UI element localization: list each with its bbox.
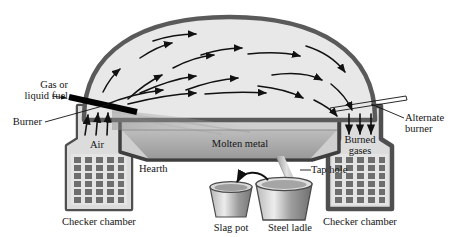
gas-or-liquid-fuel-label-line2: liquid fuel <box>2 90 68 102</box>
molten-metal-label: Molten metal <box>190 138 290 150</box>
alternate-burner-label-line1: Alternate <box>405 112 444 124</box>
burned-gases-label-line1: Burned <box>336 134 384 146</box>
open-hearth-furnace-diagram: Gas or liquid fuel Burner Air Hearth Mol… <box>0 0 459 237</box>
burner-label: Burner <box>2 116 42 128</box>
air-label: Air <box>81 139 113 151</box>
slag-pot-label: Slag pot <box>200 222 262 234</box>
alternate-burner-label-line2: burner <box>405 123 432 135</box>
checker-chamber-left-label: Checker chamber <box>41 216 157 228</box>
slag-pot <box>210 182 252 217</box>
hearth-label: Hearth <box>139 163 168 175</box>
steel-ladle <box>256 177 312 220</box>
tap-hole-label: Tap hole <box>311 164 347 176</box>
burned-gases-label-line2: gases <box>336 145 384 157</box>
furnace-illustration <box>0 0 459 237</box>
checker-chamber-right-label: Checker chamber <box>302 216 418 228</box>
gas-or-liquid-fuel-label-line1: Gas or <box>6 79 68 91</box>
